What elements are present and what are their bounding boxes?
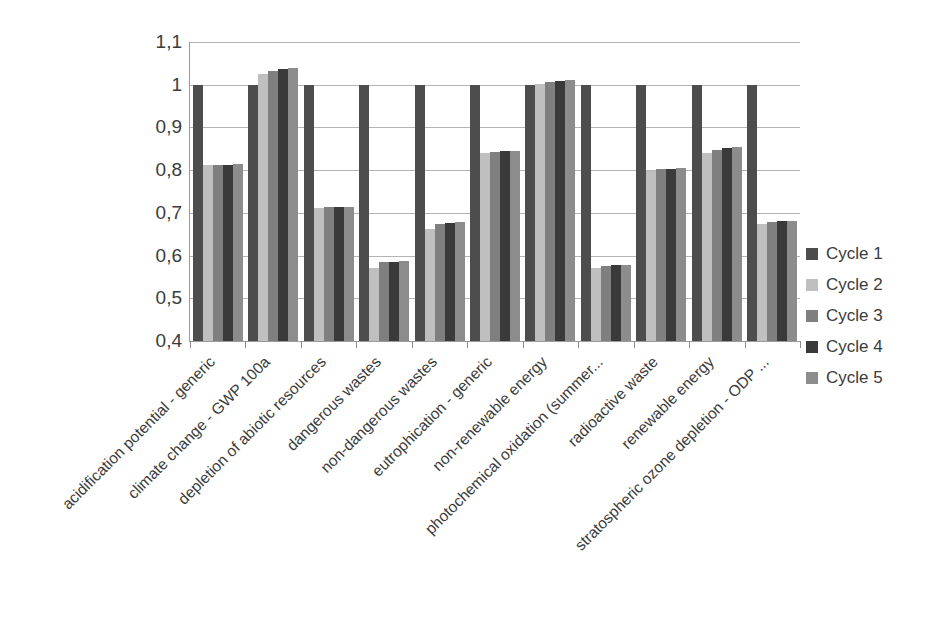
legend-swatch-icon: [806, 279, 818, 291]
gridline: [190, 341, 800, 342]
bar-group: [578, 42, 633, 341]
legend-item-label: Cycle 3: [826, 307, 883, 324]
bar[interactable]: [666, 169, 676, 341]
bar-group: [190, 42, 245, 341]
bar[interactable]: [248, 85, 258, 341]
bar-group: [412, 42, 467, 341]
bar[interactable]: [535, 84, 545, 341]
bar[interactable]: [581, 85, 591, 341]
bar[interactable]: [223, 165, 233, 341]
bar[interactable]: [621, 265, 631, 341]
x-axis-tick-mark: [523, 341, 524, 348]
x-axis-tick-mark: [245, 341, 246, 348]
bar[interactable]: [777, 221, 787, 341]
x-axis-category-label: climate change - GWP 100a: [50, 354, 273, 577]
x-axis-category-label: photochemical oxidation (summer...: [382, 354, 605, 577]
bar-group: [467, 42, 522, 341]
bar[interactable]: [591, 268, 601, 341]
bar[interactable]: [435, 224, 445, 341]
legend-swatch-icon: [806, 248, 818, 260]
bar[interactable]: [359, 85, 369, 341]
bar[interactable]: [747, 85, 757, 341]
bar[interactable]: [389, 262, 399, 341]
bar[interactable]: [399, 261, 409, 341]
bar[interactable]: [692, 85, 702, 341]
bar[interactable]: [565, 80, 575, 341]
legend-item-cycle-2[interactable]: Cycle 2: [806, 269, 928, 300]
legend-swatch-icon: [806, 341, 818, 353]
x-axis-tick-mark: [689, 341, 690, 348]
bar[interactable]: [324, 207, 334, 341]
bar[interactable]: [722, 148, 732, 341]
bar-group: [356, 42, 411, 341]
bar[interactable]: [268, 71, 278, 341]
y-axis-tick-label: 0,6: [122, 246, 182, 265]
bar[interactable]: [480, 153, 490, 341]
bar[interactable]: [455, 222, 465, 341]
x-axis-category-label: radioactive waste: [438, 354, 661, 577]
y-axis-tick-label: 1,1: [122, 32, 182, 51]
bar[interactable]: [425, 229, 435, 341]
bar[interactable]: [470, 85, 480, 341]
bar[interactable]: [555, 81, 565, 341]
bar[interactable]: [415, 85, 425, 341]
legend-item-cycle-3[interactable]: Cycle 3: [806, 300, 928, 331]
bar[interactable]: [676, 168, 686, 341]
x-axis-category-label: acidification potential - generic: [0, 354, 218, 577]
bar-group: [745, 42, 800, 341]
x-axis-tick-mark: [800, 341, 801, 348]
bar[interactable]: [787, 221, 797, 341]
y-axis-tick-label: 0,7: [122, 203, 182, 222]
bar[interactable]: [203, 165, 213, 341]
x-axis-category-label: dangerous wastes: [161, 354, 384, 577]
legend-item-cycle-5[interactable]: Cycle 5: [806, 362, 928, 393]
y-axis-tick-labels: 1,110,90,80,70,60,50,4: [110, 42, 182, 341]
bar[interactable]: [288, 68, 298, 341]
bar-group: [301, 42, 356, 341]
x-axis-tick-mark: [578, 341, 579, 348]
legend-item-cycle-1[interactable]: Cycle 1: [806, 238, 928, 269]
bar-group: [523, 42, 578, 341]
bar[interactable]: [525, 85, 535, 341]
bar[interactable]: [712, 150, 722, 341]
bar[interactable]: [646, 171, 656, 341]
bar[interactable]: [304, 85, 314, 341]
x-axis-tick-mark: [745, 341, 746, 348]
bar[interactable]: [656, 169, 666, 341]
bar[interactable]: [379, 262, 389, 341]
chart-legend: Cycle 1Cycle 2Cycle 3Cycle 4Cycle 5: [806, 238, 928, 393]
bar[interactable]: [193, 85, 203, 341]
x-axis-tick-mark: [412, 341, 413, 348]
bar[interactable]: [510, 151, 520, 341]
x-axis-category-label: non-dangerous wastes: [216, 354, 439, 577]
legend-swatch-icon: [806, 310, 818, 322]
bar[interactable]: [611, 265, 621, 341]
y-axis-tick-label: 0,9: [122, 117, 182, 136]
bar[interactable]: [334, 207, 344, 341]
bar[interactable]: [732, 147, 742, 341]
x-axis-category-label: depletion of abiotic resources: [105, 354, 328, 577]
bar[interactable]: [213, 165, 223, 341]
bar[interactable]: [757, 224, 767, 341]
bar[interactable]: [314, 208, 324, 341]
y-axis-tick-label: 0,4: [122, 331, 182, 350]
x-axis-tick-mark: [190, 341, 191, 348]
bar-group: [245, 42, 300, 341]
bar[interactable]: [258, 74, 268, 341]
bar[interactable]: [233, 164, 243, 341]
bar[interactable]: [767, 222, 777, 341]
bar[interactable]: [490, 152, 500, 341]
bar[interactable]: [500, 151, 510, 341]
legend-item-label: Cycle 2: [826, 276, 883, 293]
bar[interactable]: [369, 268, 379, 341]
bar[interactable]: [445, 223, 455, 341]
bar[interactable]: [601, 266, 611, 341]
bar[interactable]: [545, 82, 555, 341]
bar[interactable]: [278, 69, 288, 341]
bar[interactable]: [636, 85, 646, 341]
legend-item-cycle-4[interactable]: Cycle 4: [806, 331, 928, 362]
bar[interactable]: [344, 207, 354, 341]
x-axis-tick-mark: [467, 341, 468, 348]
y-axis-tick-label: 0,5: [122, 288, 182, 307]
bar[interactable]: [702, 153, 712, 341]
